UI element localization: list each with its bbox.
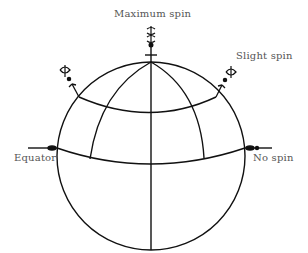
left-slight-spin-icon — [60, 65, 79, 97]
globe-diagram — [0, 0, 308, 253]
equator-label: Equator — [14, 152, 56, 163]
mid-latitude-line — [79, 97, 216, 113]
right-slight-spin-icon — [216, 66, 236, 97]
pole-pendulum-icon — [145, 26, 157, 62]
slight-spin-label: Slight spin — [236, 50, 293, 61]
no-spin-label: No spin — [253, 152, 294, 163]
right-no-spin-icon — [245, 146, 272, 150]
maximum-spin-label: Maximum spin — [114, 8, 191, 19]
left-no-spin-icon — [28, 146, 57, 150]
